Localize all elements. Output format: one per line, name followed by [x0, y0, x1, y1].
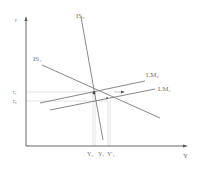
shift-arrow-icon [121, 91, 125, 94]
y1p-tick-label: Y'₁ [107, 151, 115, 157]
lm0-label: LM₀ [146, 71, 160, 79]
y1-tick-label: Y₁ [98, 151, 104, 157]
axes [26, 19, 185, 146]
equilibrium-point-0 [93, 92, 96, 95]
r0-tick-label: r₀ [13, 98, 17, 104]
x-axis-label: Y [183, 152, 188, 160]
y0-tick-label: Y₀ [87, 151, 93, 157]
lm1-label: LM₁ [158, 85, 171, 93]
x-axis-arrow-icon [183, 145, 188, 148]
y-axis-arrow-icon [25, 16, 28, 21]
is-lm-diagram: r Y IS₀ IS₁ LM₀ LM₁ r₁ r₀ Y₀ Y₁ Y'₁ [0, 0, 200, 173]
curves [40, 17, 160, 140]
is0-curve [81, 17, 103, 140]
r1-tick-label: r₁ [13, 89, 17, 95]
y-axis-label: r [15, 17, 17, 23]
equilibrium-point-1 [106, 97, 108, 99]
is0-label: IS₀ [76, 12, 85, 20]
is1-label: IS₁ [33, 55, 42, 63]
